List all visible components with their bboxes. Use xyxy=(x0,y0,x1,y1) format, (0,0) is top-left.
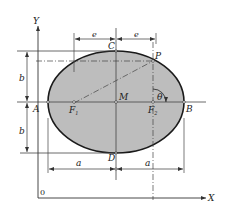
point-b-dot xyxy=(183,101,186,104)
point-a-dot xyxy=(47,101,50,104)
point-c-dot xyxy=(115,50,117,52)
point-d-dot xyxy=(115,152,117,154)
theta-label: θ xyxy=(157,92,163,102)
ellipse-diagram: Y X 0 A B C D M P F1 F2 θ e e b b a a xyxy=(0,0,226,219)
label-c-point: C xyxy=(108,41,115,51)
point-f1-dot xyxy=(73,101,76,104)
bottom-dim-dot xyxy=(115,168,117,170)
label-b-point: B xyxy=(185,104,193,114)
y-axis-label: Y xyxy=(33,16,40,26)
a-right-label: a xyxy=(145,158,150,168)
origin-label: 0 xyxy=(40,188,45,197)
e-left-label: e xyxy=(92,30,97,39)
label-a-point: A xyxy=(32,104,40,114)
point-m-dot xyxy=(115,101,118,104)
point-p-dot xyxy=(152,60,155,63)
point-f2-dot xyxy=(152,101,155,104)
b-top-label: b xyxy=(19,73,25,83)
b-bottom-label: b xyxy=(19,126,25,136)
a-left-label: a xyxy=(76,158,81,168)
e-right-label: e xyxy=(134,30,139,39)
x-axis-label: X xyxy=(207,193,215,203)
label-d-point: D xyxy=(107,153,115,163)
label-p-point: P xyxy=(154,51,162,61)
label-m-point: M xyxy=(118,92,129,102)
